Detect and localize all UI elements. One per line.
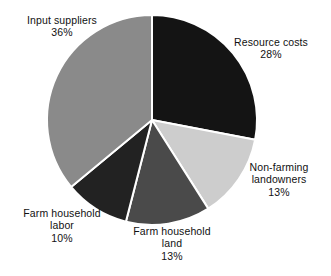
pie-label-nonfarming-landowners-value: 13%	[229, 186, 329, 198]
pie-label-farm-household-labor-text-1: Farm household	[2, 207, 122, 219]
pie-label-farm-household-labor-text-2: labor	[2, 219, 122, 231]
pie-label-resource-costs: Resource costs 28%	[214, 36, 328, 61]
pie-label-resource-costs-value: 28%	[214, 48, 328, 60]
pie-label-farm-household-labor: Farm household labor 10%	[2, 207, 122, 244]
pie-label-farm-household-labor-value: 10%	[2, 232, 122, 244]
pie-label-farm-household-land-value: 13%	[114, 250, 230, 262]
pie-label-input-suppliers-value: 36%	[4, 26, 120, 38]
pie-label-input-suppliers-text: Input suppliers	[4, 14, 120, 26]
pie-label-farm-household-land: Farm household land 13%	[114, 225, 230, 262]
pie-label-farm-household-land-text-2: land	[114, 237, 230, 249]
pie-label-nonfarming-landowners-text-2: landowners	[229, 173, 329, 185]
pie-label-resource-costs-text: Resource costs	[214, 36, 328, 48]
pie-label-input-suppliers: Input suppliers 36%	[4, 14, 120, 39]
pie-label-nonfarming-landowners-text-1: Non-farming	[229, 161, 329, 173]
pie-slice-resource-costs	[152, 15, 257, 140]
pie-label-farm-household-land-text-1: Farm household	[114, 225, 230, 237]
pie-chart-figure: Input suppliers 36% Resource costs 28% N…	[0, 0, 331, 276]
pie-label-nonfarming-landowners: Non-farming landowners 13%	[229, 161, 329, 198]
